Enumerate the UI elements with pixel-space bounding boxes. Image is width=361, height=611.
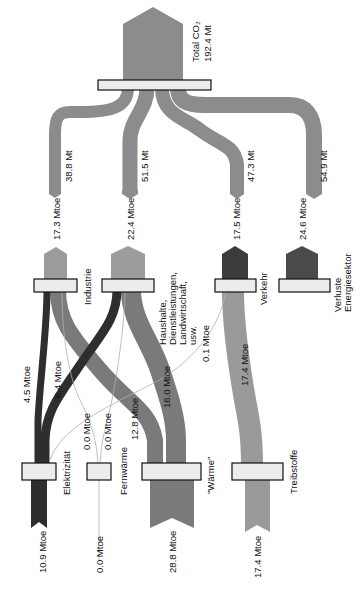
total-value: 192.4 Mt	[202, 25, 213, 62]
node-haushalte	[102, 279, 154, 292]
total-co2-node	[98, 80, 211, 90]
sector-arrow-industrie	[44, 247, 67, 280]
energy-verluste: 24.6 Mtoe	[297, 198, 308, 240]
energy-verkehr: 17.5 Mtoe	[231, 198, 242, 240]
cross-flows	[38, 290, 252, 465]
node-fernwaerme	[87, 463, 111, 480]
co2-arrow-haushalte	[122, 190, 138, 199]
node-waerme	[142, 463, 201, 480]
co2-flows	[55, 88, 314, 190]
node-verluste	[279, 279, 330, 292]
flow-value-elek-industrie: 4.5 Mtoe	[21, 366, 32, 403]
node-industrie	[34, 279, 77, 292]
flow-value-treibstoffe-verkehr: 17.4 Mtoe	[239, 344, 250, 386]
energy-haushalte: 22.4 Mtoe	[125, 198, 136, 240]
carrier-value-treibstoffe: 17.4 Mtoe	[252, 536, 263, 578]
total-label: Total CO₂	[190, 21, 201, 62]
carrier-label-elektrizitaet: Elektrizität	[61, 451, 72, 495]
energy-industrie: 17.3 Mtoe	[51, 198, 62, 240]
sector-arrow-verkehr	[222, 246, 248, 280]
sector-arrow-verluste	[286, 246, 318, 280]
flow-value-waerme-verkehr: 0.1 Mtoe	[200, 325, 211, 362]
flow-value-fern-haushalte: 0.0 Mtoe	[102, 413, 113, 450]
carrier-label-treibstoffe: Treibstoffe	[288, 450, 299, 494]
carrier-label-fernwaerme: Fernwärme	[118, 447, 129, 495]
carrier-value-elektrizitaet: 10.9 Mtoe	[37, 531, 48, 573]
co2-arrow-verkehr	[230, 190, 244, 199]
flow-value-elek-haushalte: 6.4 Mtoe	[52, 361, 63, 398]
co2-value-verkehr: 47.3 Mt	[245, 150, 256, 182]
carrier-label-waerme: "Wärme"	[205, 457, 216, 494]
co2-value-verluste: 54.9 Mt	[318, 150, 329, 182]
carrier-value-fernwaerme: 0.0 Mtoe	[94, 536, 105, 573]
flow-value-fern-industrie: 0.0 Mtoe	[81, 413, 92, 450]
sector-arrow-haushalte	[111, 246, 145, 280]
co2-arrow-industrie	[49, 190, 61, 198]
node-verkehr	[215, 279, 256, 292]
sankey-diagram: Total CO₂ 192.4 Mt 38.8 Mt 51.5 Mt 47.3 …	[0, 0, 361, 611]
flow-value-waerme-industrie: 12.8 Mtoe	[129, 398, 140, 440]
co2-value-industrie: 38.8 Mt	[63, 150, 74, 182]
sector-label-verkehr: Verkehr	[258, 272, 269, 305]
carrier-value-waerme: 28.8 Mtoe	[167, 531, 178, 573]
node-elektrizitaet	[22, 463, 56, 480]
flow-value-waerme-haushalte: 16.0 Mtoe	[161, 366, 172, 408]
total-co2-arrow	[123, 7, 183, 82]
sector-label-verluste-2: Energiesektor	[342, 253, 353, 312]
sector-label-haushalte-4: usw.	[187, 326, 198, 345]
node-treibstoffe	[232, 463, 283, 480]
co2-arrow-verluste	[306, 190, 322, 199]
co2-value-haushalte: 51.5 Mt	[139, 150, 150, 182]
sector-label-industrie: Industrie	[82, 269, 93, 305]
